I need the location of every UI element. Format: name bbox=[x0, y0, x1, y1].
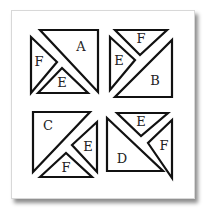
label-e: E bbox=[83, 139, 93, 154]
label-a: A bbox=[75, 39, 86, 54]
quadrant-bottom-left: C E F bbox=[33, 112, 97, 177]
quadrant-top-left: A F E bbox=[31, 30, 98, 93]
quadrant-bottom-right: E F D bbox=[107, 113, 172, 178]
label-b: B bbox=[150, 73, 160, 88]
label-f: F bbox=[34, 54, 43, 69]
label-f: F bbox=[136, 31, 145, 46]
quadrant-top-right: F E B bbox=[110, 30, 172, 97]
tangram-diagram: A F E F E B C E F E F D bbox=[0, 0, 204, 211]
label-e: E bbox=[136, 114, 146, 129]
label-e: E bbox=[57, 75, 67, 90]
label-c: C bbox=[43, 118, 53, 133]
label-f: F bbox=[159, 138, 168, 153]
label-f: F bbox=[61, 160, 70, 175]
label-d: D bbox=[117, 151, 127, 166]
label-e: E bbox=[114, 53, 124, 68]
